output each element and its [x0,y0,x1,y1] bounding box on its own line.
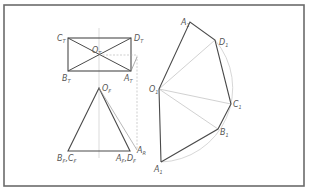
label-ar: AR [136,146,146,156]
label-a1-top: A1 [180,18,190,28]
label-bf-cf: BF,CF [57,154,77,164]
development-arc [161,40,233,162]
drawing-frame [4,5,304,186]
label-c1: C1 [233,100,242,110]
label-af-df: AF,DF [115,154,136,164]
drawing-canvas: CT DT OT BT AT OF BF,CF AF,DF AR O1 A1 D… [0,0,312,194]
label-d1: D1 [219,38,228,48]
true-length-line [99,88,137,150]
label-b1: B1 [220,128,229,138]
front-view: OF BF,CF AF,DF AR [57,84,146,164]
top-view: CT DT OT BT AT [57,28,144,158]
fold-line-d1 [159,40,215,89]
label-at: AT [123,74,133,84]
label-bt: BT [62,74,72,84]
label-dt: DT [134,34,144,44]
rotated-line [131,57,137,71]
label-of: OF [102,84,111,94]
label-a1-bottom: A1 [153,165,163,175]
label-ot: OT [92,46,102,56]
development-view: O1 A1 D1 C1 B1 A1 [149,18,242,175]
label-ct: CT [57,34,67,44]
label-o1: O1 [149,85,158,95]
